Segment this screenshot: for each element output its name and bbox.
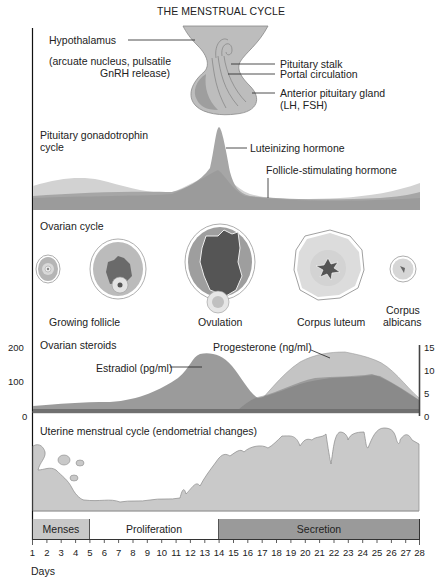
hypothalamus-sub-line1: (arcuate nucleus, pulsatile [49, 55, 171, 67]
ovarian-cycle-label: Ovarian cycle [40, 220, 104, 232]
stage-corpus-albicans-line2: albicans [383, 316, 422, 328]
hypothalamus-sub-line2: GnRH release) [100, 67, 170, 79]
progesterone-label: Progesterone (ng/ml) [213, 341, 312, 353]
phase-secretion: Secretion [219, 519, 419, 539]
gonadotrophin-label-line2: cycle [40, 141, 64, 153]
right-axis-tick-5: 5 [424, 388, 429, 400]
anterior-pituitary-hormones: (LH, FSH) [280, 99, 327, 111]
estradiol-label: Estradiol (pg/ml) [96, 362, 172, 374]
stage-corpus-luteum: Corpus luteum [297, 316, 365, 328]
fsh-label: Follicle-stimulating hormone [266, 164, 397, 176]
left-axis-tick-0: 0 [22, 411, 27, 423]
phase-menses: Menses [33, 519, 90, 539]
left-axis-tick-100: 100 [8, 376, 24, 388]
stage-growing-follicle: Growing follicle [49, 316, 120, 328]
uterine-cycle-label: Uterine menstrual cycle (endometrial cha… [40, 425, 257, 437]
lh-label: Luteinizing hormone [250, 142, 345, 154]
stage-corpus-albicans-line1: Corpus [386, 304, 420, 316]
right-axis-tick-0: 0 [424, 411, 429, 423]
x-axis-label: Days [31, 565, 55, 577]
hypothalamus-label: Hypothalamus [49, 34, 116, 46]
gonadotrophin-label-line1: Pituitary gonadotrophin [40, 129, 148, 141]
ovarian-steroids-label: Ovarian steroids [40, 339, 116, 351]
stage-ovulation: Ovulation [198, 316, 242, 328]
anterior-pituitary-label: Anterior pituitary gland [280, 87, 385, 99]
phase-proliferation: Proliferation [90, 519, 219, 539]
left-axis-tick-200: 200 [8, 342, 24, 354]
portal-circulation-label: Portal circulation [280, 68, 358, 80]
uterine-chart [33, 428, 419, 511]
right-axis-tick-10: 10 [424, 365, 435, 377]
right-axis-tick-15: 15 [424, 342, 435, 354]
day-label: 28 [410, 547, 430, 558]
ovarian-drawings [36, 224, 416, 313]
ovarian-steroids-chart [33, 345, 420, 416]
